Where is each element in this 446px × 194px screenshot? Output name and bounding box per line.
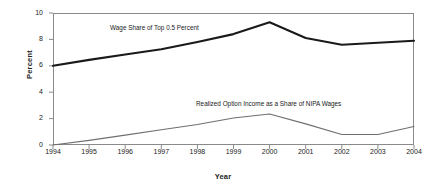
x-tick-label: 1996	[105, 148, 145, 155]
x-tick-label: 2000	[250, 148, 290, 155]
y-axis-tick-marks	[49, 13, 53, 145]
y-tick-label: 10	[19, 9, 43, 16]
x-tick-label: 1994	[33, 148, 73, 155]
x-axis-title: Year	[0, 172, 446, 181]
line-chart: Percent 0246810 199419951996199719981999…	[0, 0, 446, 194]
y-tick-label: 4	[19, 88, 43, 95]
x-tick-label: 1997	[141, 148, 181, 155]
series-line	[53, 22, 414, 66]
series-label-option-income: Realized Option Income as a Share of NIP…	[196, 100, 341, 107]
x-tick-label: 1998	[177, 148, 217, 155]
x-tick-label: 2002	[322, 148, 362, 155]
y-tick-label: 8	[19, 35, 43, 42]
x-tick-label: 2001	[286, 148, 326, 155]
x-tick-label: 2003	[358, 148, 398, 155]
series-label-wage-share: Wage Share of Top 0.5 Percent	[110, 24, 199, 31]
y-tick-label: 0	[19, 141, 43, 148]
chart-canvas	[0, 0, 446, 194]
y-tick-label: 2	[19, 114, 43, 121]
x-tick-label: 1995	[69, 148, 109, 155]
y-tick-label: 6	[19, 61, 43, 68]
series-lines	[53, 22, 414, 145]
x-tick-label: 2004	[394, 148, 434, 155]
x-tick-label: 1999	[214, 148, 254, 155]
series-line	[53, 114, 414, 145]
